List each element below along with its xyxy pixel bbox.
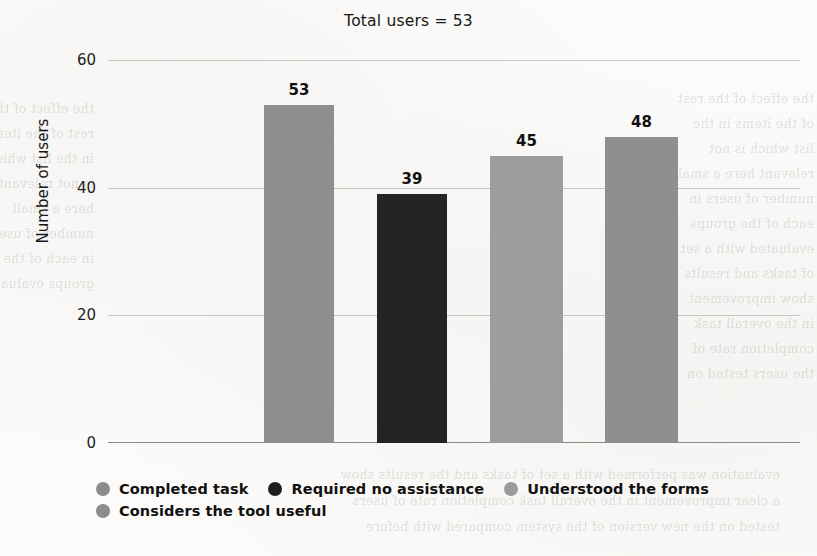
axis-baseline (108, 442, 800, 443)
bar-value-understood-the-forms: 45 (516, 132, 537, 150)
y-tick-40: 40 (36, 179, 96, 197)
legend-label-completed-task: Completed task (119, 481, 248, 497)
chart-title: Total users = 53 (0, 12, 817, 30)
y-tick-60: 60 (36, 51, 96, 69)
legend-item-completed-task[interactable]: Completed task (96, 478, 248, 500)
bar-fill-required-no-assistance (377, 194, 447, 443)
legend-swatch-icon-considers-the-tool-useful (96, 504, 110, 518)
y-tick-0: 0 (36, 434, 96, 452)
gridline-60 (108, 60, 800, 61)
bar-completed-task[interactable]: 53 (264, 105, 334, 443)
legend-swatch-icon-completed-task (96, 482, 110, 496)
bar-required-no-assistance[interactable]: 39 (377, 194, 447, 443)
bar-fill-completed-task (264, 105, 334, 443)
legend-item-required-no-assistance[interactable]: Required no assistance (268, 478, 484, 500)
y-axis-ticks: 60 40 20 0 (28, 60, 96, 443)
chart-legend: Completed task Required no assistance Un… (96, 478, 796, 522)
gridline-20 (108, 315, 800, 316)
legend-label-required-no-assistance: Required no assistance (291, 481, 484, 497)
bar-value-required-no-assistance: 39 (402, 170, 423, 188)
chart-page: the effect of the rest of the items in t… (0, 0, 817, 556)
legend-item-considers-the-tool-useful[interactable]: Considers the tool useful (96, 500, 326, 522)
legend-swatch-icon-required-no-assistance (268, 482, 282, 496)
bar-fill-considers-the-tool-useful (605, 137, 678, 443)
bar-considers-the-tool-useful[interactable]: 48 (605, 137, 678, 443)
legend-label-understood-the-forms: Understood the forms (527, 481, 709, 497)
y-tick-20: 20 (36, 306, 96, 324)
bar-value-completed-task: 53 (289, 81, 310, 99)
legend-swatch-icon-understood-the-forms (504, 482, 518, 496)
bar-fill-understood-the-forms (490, 156, 563, 443)
bar-value-considers-the-tool-useful: 48 (631, 113, 652, 131)
bar-understood-the-forms[interactable]: 45 (490, 156, 563, 443)
plot-area: 53 39 45 48 (108, 60, 800, 443)
gridline-40 (108, 188, 800, 189)
legend-item-understood-the-forms[interactable]: Understood the forms (504, 478, 709, 500)
legend-label-considers-the-tool-useful: Considers the tool useful (119, 503, 326, 519)
